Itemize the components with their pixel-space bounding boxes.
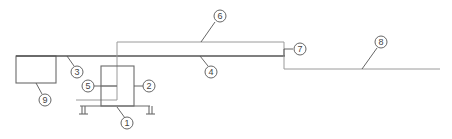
svg-text:1: 1 (124, 118, 129, 128)
left-box (16, 56, 56, 83)
callout-1: 1 (121, 117, 133, 129)
svg-text:2: 2 (146, 81, 151, 91)
callout-4: 4 (205, 66, 217, 78)
callout-2: 2 (143, 80, 155, 92)
callout-7: 7 (294, 43, 306, 55)
leader-1 (117, 107, 125, 118)
leader-8 (362, 48, 377, 69)
schematic-diagram: 1 2 3 4 5 6 7 8 9 (0, 0, 452, 139)
callout-6: 6 (214, 10, 226, 22)
svg-text:4: 4 (208, 67, 213, 77)
leader-9 (36, 83, 42, 94)
svg-text:9: 9 (42, 95, 47, 105)
upper-frame (117, 42, 440, 100)
svg-text:7: 7 (297, 44, 302, 54)
svg-text:3: 3 (74, 67, 79, 77)
leader-6 (201, 22, 215, 42)
callout-5: 5 (82, 80, 94, 92)
svg-text:8: 8 (378, 37, 383, 47)
svg-text:5: 5 (85, 81, 90, 91)
leader-4 (200, 56, 208, 66)
callout-9: 9 (39, 94, 51, 106)
leader-3 (67, 56, 74, 66)
svg-text:6: 6 (217, 11, 222, 21)
callout-3: 3 (71, 66, 83, 78)
callout-8: 8 (375, 36, 387, 48)
